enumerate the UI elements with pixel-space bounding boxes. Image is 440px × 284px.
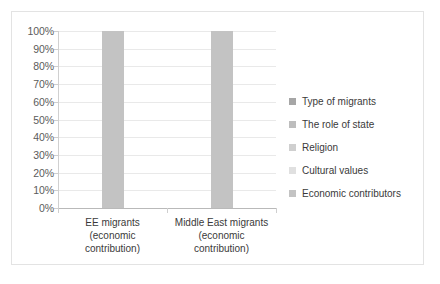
bar: [102, 31, 124, 208]
legend-swatch-icon: [289, 190, 296, 197]
legend-item[interactable]: Type of migrants: [289, 90, 419, 113]
y-axis-tick-label: 20%: [14, 168, 54, 179]
legend-swatch-icon: [289, 167, 296, 174]
legend-label: Type of migrants: [302, 97, 376, 107]
legend-item[interactable]: The role of state: [289, 113, 419, 136]
x-axis-category-label-line: (economic: [157, 229, 286, 242]
x-axis-category-label-line: contribution): [157, 242, 286, 255]
x-axis-tick-mark: [58, 208, 59, 213]
legend-label: The role of state: [302, 120, 374, 130]
y-axis-tick-label: 10%: [14, 185, 54, 196]
legend-item[interactable]: Religion: [289, 136, 419, 159]
x-axis-tick-mark: [167, 208, 168, 213]
y-axis-tick-label: 30%: [14, 150, 54, 161]
x-axis-category-label-line: Middle East migrants: [157, 216, 286, 229]
y-axis-tick-label: 50%: [14, 115, 54, 126]
legend-label: Cultural values: [302, 166, 368, 176]
bar: [211, 31, 233, 208]
legend-label: Religion: [302, 143, 338, 153]
y-axis-tick-label: 90%: [14, 44, 54, 55]
chart-bars: [58, 31, 276, 208]
y-axis-tick-label: 100%: [14, 26, 54, 37]
y-axis-tick-label: 70%: [14, 79, 54, 90]
chart-legend: Type of migrantsThe role of stateReligio…: [289, 90, 419, 205]
y-axis-tick-label: 40%: [14, 132, 54, 143]
legend-label: Economic contributors: [302, 189, 401, 199]
y-axis-tick-label: 80%: [14, 61, 54, 72]
x-axis-tick-mark: [276, 208, 277, 213]
x-axis-category-label: Middle East migrants(economiccontributio…: [157, 216, 286, 255]
chart-container: 100%90%80%70%60%50%40%30%20%10%0% EE mig…: [0, 0, 440, 284]
legend-item[interactable]: Economic contributors: [289, 182, 419, 205]
y-axis-tick-label: 0%: [14, 203, 54, 214]
legend-item[interactable]: Cultural values: [289, 159, 419, 182]
legend-swatch-icon: [289, 98, 296, 105]
legend-swatch-icon: [289, 121, 296, 128]
legend-swatch-icon: [289, 144, 296, 151]
y-axis-tick-label: 60%: [14, 97, 54, 108]
